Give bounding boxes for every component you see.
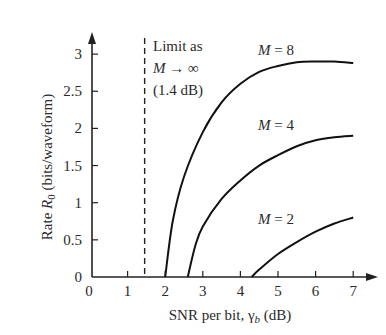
x-tick-label: 3	[199, 283, 207, 299]
y-tick-label: 2.5	[63, 83, 82, 99]
curve-label: M = 8	[257, 42, 294, 58]
x-axis-arrow-icon	[366, 273, 378, 281]
y-tick-label: 1.5	[63, 158, 82, 174]
limit-line: Limit asM → ∞(1.4 dB)	[145, 38, 203, 277]
y-tick-label: 3	[75, 46, 83, 62]
limit-label-line3: (1.4 dB)	[153, 82, 203, 99]
y-axis-arrow-icon	[88, 32, 96, 44]
curve-label: M = 2	[257, 211, 294, 227]
curve-m4	[188, 136, 353, 277]
x-tick-label: 1	[124, 283, 132, 299]
y-tick-label: 0.5	[63, 232, 82, 248]
y-tick-label: 0	[75, 269, 83, 285]
x-tick-label: 4	[237, 283, 245, 299]
curve-label: M = 4	[257, 117, 294, 133]
rate-vs-snr-chart: 0123456700.511.522.53 Limit asM → ∞(1.4 …	[0, 0, 386, 335]
y-tick-label: 1	[75, 195, 83, 211]
tick-marks: 0123456700.511.522.53	[63, 46, 357, 299]
x-tick-label: 7	[349, 283, 357, 299]
limit-label-line2: M → ∞	[152, 60, 199, 76]
x-axis-title: SNR per bit, γb (dB)	[169, 307, 292, 325]
x-tick-label: 2	[161, 283, 169, 299]
axes	[88, 32, 378, 281]
y-tick-label: 2	[75, 120, 83, 136]
y-axis-title: Rate R0 (bits/waveform)	[39, 94, 57, 240]
x-tick-label: 0	[85, 283, 93, 299]
x-tick-label: 5	[274, 283, 282, 299]
x-tick-label: 6	[312, 283, 320, 299]
limit-label-line1: Limit as	[153, 38, 203, 54]
